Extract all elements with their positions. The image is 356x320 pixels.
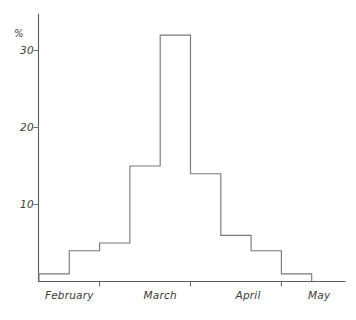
x-tick-label-april: April (236, 289, 261, 301)
x-tick-label-may: May (308, 289, 330, 301)
x-tick-label-march: March (144, 289, 177, 301)
chart-canvas (0, 0, 356, 320)
data-series-group (39, 35, 312, 281)
histogram-chart: % 30 20 10 February March April May (0, 0, 356, 320)
x-tick-label-february: February (45, 289, 94, 301)
y-tick-label-20: 20 (8, 121, 34, 133)
y-axis-unit-label: % (14, 28, 24, 39)
y-tick-marks (34, 51, 39, 205)
y-tick-label-10: 10 (8, 198, 34, 210)
axes-group (39, 14, 346, 282)
y-tick-label-30: 30 (8, 44, 34, 56)
histogram-outline (39, 35, 312, 281)
x-tick-marks (100, 282, 282, 287)
